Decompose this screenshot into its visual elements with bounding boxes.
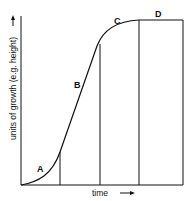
phase-label-a: A [37, 164, 44, 174]
y-arrowhead-icon [11, 15, 15, 20]
phase-label-d: D [155, 9, 162, 19]
growth-diagram: A B C D units of growth (e.g. height) ti… [0, 0, 186, 201]
growth-curve [21, 20, 183, 185]
phase-label-c: C [114, 16, 121, 26]
x-axis-label: time [92, 188, 108, 198]
phase-label-b: B [74, 80, 81, 90]
x-arrowhead-icon [130, 191, 135, 195]
y-axis-label: units of growth (e.g. height) [8, 37, 18, 140]
